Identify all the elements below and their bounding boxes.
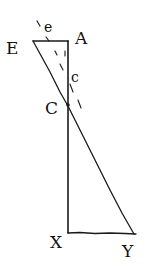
tick-mark-e xyxy=(37,21,40,26)
point-C-dot xyxy=(66,103,70,107)
label-C: C xyxy=(45,98,58,118)
hatch-mark-3 xyxy=(60,64,63,70)
label-c: c xyxy=(71,69,79,85)
label-e: e xyxy=(44,19,52,35)
geometry-diagram: E A e c C X Y xyxy=(0,0,148,273)
label-E: E xyxy=(6,38,18,58)
segment-XY xyxy=(68,233,136,235)
segment-EY xyxy=(33,41,134,234)
label-Y: Y xyxy=(121,241,134,261)
hatch-mark-1 xyxy=(55,51,57,55)
hatch-mark-5 xyxy=(78,100,81,108)
label-X: X xyxy=(50,232,63,252)
label-A: A xyxy=(74,28,88,48)
hatch-mark-4 xyxy=(70,84,73,92)
